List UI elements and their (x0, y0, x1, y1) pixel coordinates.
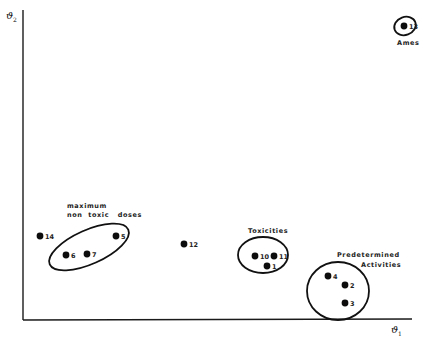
svg-text:1: 1 (272, 263, 277, 271)
point-13: 13 (401, 23, 418, 31)
point-2: 2 (342, 282, 355, 290)
svg-text:2: 2 (350, 282, 355, 290)
x-axis (23, 319, 412, 320)
svg-text:4: 4 (333, 273, 338, 281)
ames-group-label: Ames (397, 39, 419, 47)
y-axis-label: ϑ 2 (6, 10, 17, 23)
toxicities-group-label: Toxicities (248, 227, 288, 235)
point-11: 11 (271, 253, 289, 261)
point-10: 10 (252, 253, 270, 261)
point-marker (325, 273, 332, 280)
x-axis-label: ϑ 1 (391, 324, 402, 337)
svg-text:7: 7 (92, 251, 97, 259)
max-non-toxic-cluster-outline (43, 214, 135, 280)
point-marker (342, 300, 349, 307)
svg-text:11: 11 (279, 253, 289, 261)
point-marker (401, 23, 408, 30)
point-marker (113, 233, 120, 240)
point-marker (271, 253, 278, 260)
point-marker (37, 233, 44, 240)
point-12: 12 (181, 241, 198, 249)
svg-text:3: 3 (350, 300, 355, 308)
diagram-canvas: ϑ 2 ϑ 1 Ames maximum non toxic doses Tox… (0, 0, 427, 342)
point-marker (63, 252, 70, 259)
point-marker (84, 251, 91, 258)
point-1: 1 (264, 263, 277, 271)
point-3: 3 (342, 300, 355, 308)
svg-text:2: 2 (13, 16, 17, 23)
svg-text:maximum: maximum (67, 202, 107, 210)
predetermined-cluster-outline (307, 262, 369, 320)
predetermined-group-label: Predetermined Activities (337, 251, 401, 269)
point-6: 6 (63, 252, 76, 260)
point-marker (181, 241, 188, 248)
point-marker (252, 253, 259, 260)
svg-text:13: 13 (409, 23, 418, 31)
point-14: 14 (37, 233, 55, 241)
point-7: 7 (84, 251, 97, 259)
point-marker (264, 263, 271, 270)
svg-text:10: 10 (260, 253, 270, 261)
svg-text:12: 12 (189, 241, 198, 249)
point-4: 4 (325, 273, 338, 281)
svg-text:Toxicities: Toxicities (248, 227, 288, 235)
svg-text:Predetermined: Predetermined (337, 251, 400, 259)
point-5: 5 (113, 233, 126, 241)
svg-text:Activities: Activities (361, 261, 401, 269)
svg-text:non toxic doses: non toxic doses (67, 211, 142, 219)
svg-text:5: 5 (121, 233, 126, 241)
cluster-diagram: ϑ 2 ϑ 1 Ames maximum non toxic doses Tox… (0, 0, 427, 342)
svg-text:14: 14 (45, 233, 55, 241)
max-non-toxic-group-label: maximum non toxic doses (67, 202, 142, 219)
svg-text:6: 6 (71, 252, 76, 260)
svg-text:Ames: Ames (397, 39, 419, 47)
point-marker (342, 282, 349, 289)
svg-text:1: 1 (398, 330, 402, 337)
